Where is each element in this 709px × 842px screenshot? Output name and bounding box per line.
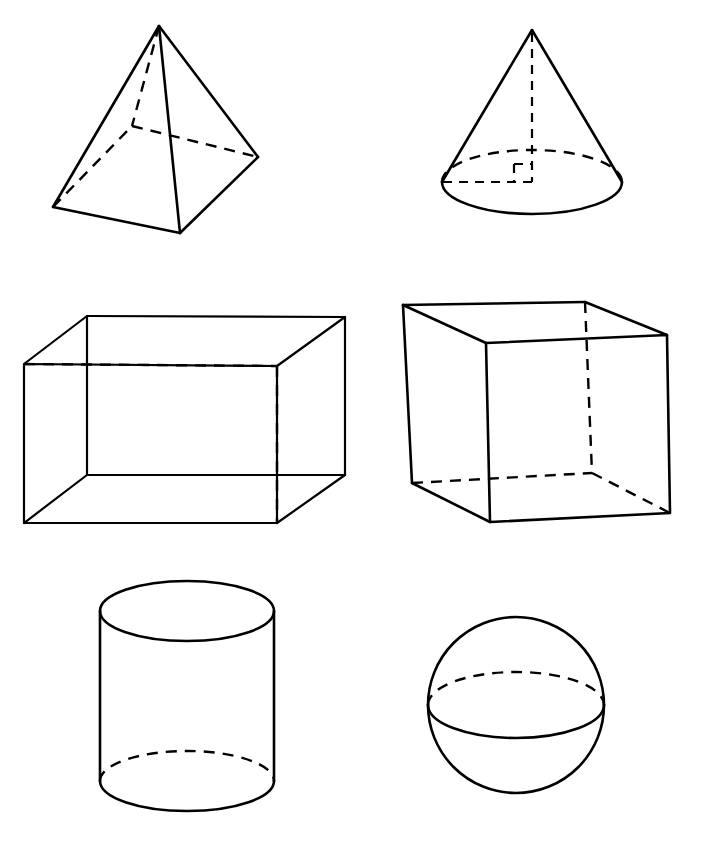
figure-square-pyramid xyxy=(53,26,258,233)
pyramid-lateral-edge-front xyxy=(159,26,180,233)
prism-connector-top-right xyxy=(277,317,345,366)
cube-top-connector-left xyxy=(403,305,486,343)
prism-back-top-edge xyxy=(87,316,345,317)
cube-top-back-right-edge xyxy=(585,302,667,335)
figure-cone xyxy=(442,30,622,214)
cube-hidden-bottom-left-edge xyxy=(412,473,592,483)
cone-slant-edge-left xyxy=(442,30,532,182)
figure-rectangular-prism xyxy=(24,316,345,523)
cylinder-bottom-back-arc xyxy=(100,751,274,781)
solids-canvas xyxy=(0,0,709,842)
pyramid-lateral-edge-left xyxy=(53,26,159,207)
sphere-equator-back-arc xyxy=(428,672,604,705)
cube-top-back-left-edge xyxy=(403,302,585,305)
cube-hidden-vertical-edge xyxy=(585,302,592,473)
cone-base-front-arc xyxy=(442,182,622,214)
prism-back-bottom-right-edge xyxy=(277,475,345,523)
figure-sphere xyxy=(428,617,604,793)
cylinder-bottom-front-arc xyxy=(100,781,274,811)
cylinder-top-ellipse xyxy=(100,581,274,641)
cube-bottom-connector-left xyxy=(412,483,490,522)
cube-front-face-outline xyxy=(486,335,670,522)
cone-slant-edge-right xyxy=(532,30,622,182)
pyramid-base-front-left-edge xyxy=(53,207,180,233)
figure-cube xyxy=(403,302,670,522)
cube-hidden-bottom-right-edge xyxy=(592,473,670,513)
geometric-solids-figure-sheet xyxy=(0,0,709,842)
pyramid-base-front-right-edge xyxy=(180,157,258,233)
cube-left-vertical-edge xyxy=(403,305,412,483)
sphere-outline-circle xyxy=(428,617,604,793)
prism-connector-bottom-left xyxy=(24,475,87,523)
prism-connector-top-left xyxy=(24,316,87,364)
pyramid-hidden-lateral-edge-back xyxy=(132,26,159,126)
prism-front-face-outline xyxy=(24,364,277,523)
figure-cylinder xyxy=(100,581,274,811)
sphere-equator-front-arc xyxy=(428,705,604,738)
